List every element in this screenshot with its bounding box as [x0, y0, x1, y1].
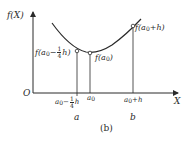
x-axis-label: X [174, 97, 180, 106]
f-label-left: f(a0−14h) [35, 46, 71, 59]
origin-label: O [23, 89, 30, 98]
point-name-a: a [74, 113, 79, 122]
x-tick-label-mid: a0 [87, 95, 95, 102]
y-axis-label: f(X) [7, 11, 24, 20]
diagram-canvas [0, 0, 190, 142]
f-label-mid: f(a0) [95, 54, 113, 62]
x-tick-label-left: a0−14h [55, 96, 79, 109]
point-mid [88, 51, 92, 55]
panel-label: (b) [100, 124, 113, 133]
point-name-b: b [130, 113, 136, 122]
x-tick-label-right: a0+h [124, 97, 142, 104]
f-label-right: f(a0+h) [135, 24, 165, 32]
point-left [75, 49, 79, 53]
